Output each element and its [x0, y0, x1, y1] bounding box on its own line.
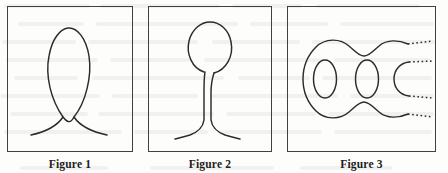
figure-caption-1: Figure 1 [7, 157, 133, 171]
dotted-trail-4 [408, 114, 433, 117]
scanned-page: Figure 1 Figure 2 [0, 0, 448, 173]
figure-caption-3: Figure 3 [287, 157, 436, 171]
figure-block-2: Figure 2 [148, 6, 272, 167]
figure-caption-2: Figure 2 [148, 157, 272, 171]
figure-block-3: Figure 3 [287, 6, 436, 167]
dotted-trail-1 [408, 41, 433, 44]
dotted-trail-3 [409, 96, 433, 98]
figure-art-balloon-loop-with-split-stem [148, 6, 272, 152]
figure-art-repeating-loop-chain-with-dotted-continuation [287, 6, 436, 152]
figure-art-single-loop-with-crossed-tails [7, 6, 133, 152]
figure-block-1: Figure 1 [7, 6, 133, 167]
figure-row: Figure 1 Figure 2 [0, 0, 448, 173]
dotted-trail-2 [409, 61, 433, 62]
